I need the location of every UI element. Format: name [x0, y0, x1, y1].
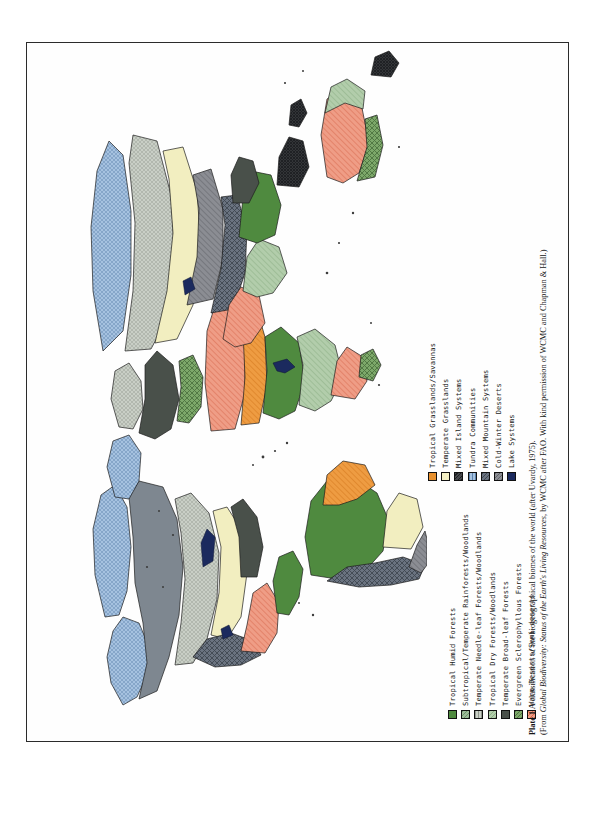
- legend-item-3: Mixed Island Systems: [453, 343, 464, 481]
- legend-item-7: Lake Systems: [506, 343, 517, 481]
- map-region-central-america: [273, 551, 303, 615]
- map-region-mediterranean: [177, 355, 203, 423]
- legend-item-1: Tropical Humid Forests: [447, 514, 458, 719]
- legend-item-6: Cold-Winter Deserts: [493, 343, 504, 481]
- legend-item-5: Temperate Broad-leaf Forests: [500, 514, 511, 719]
- legend-item-label: Subtropical/Temperate Rainforests/Woodla…: [461, 514, 470, 706]
- legend-column-grasslands: Tropical Grasslands/SavannasTemperate Gr…: [427, 343, 517, 481]
- map-region-europe-temperate: [139, 351, 179, 439]
- map-region-canada-arctic: [93, 485, 131, 617]
- legend-item-label: Mixed Mountain Systems: [481, 370, 490, 468]
- caption-plate-number: Plate 1: [528, 711, 537, 735]
- legend-item-3: Temperate Needle-leaf Forests/Woodlands: [473, 514, 484, 719]
- legend-item-label: Temperate Broad-leaf Forests: [501, 581, 510, 706]
- legend-item-4: Tropical Dry Forests/Woodlands: [487, 514, 498, 719]
- legend-swatch-icon: [501, 710, 510, 719]
- legend-swatch-icon: [454, 472, 463, 481]
- caption-source-title: Global Biodiversity: Status of the Earth…: [539, 516, 548, 712]
- legend-item-5: Mixed Mountain Systems: [480, 343, 491, 481]
- legend-swatch-icon: [468, 472, 477, 481]
- legend-item-label: Tundra Communities: [468, 388, 477, 468]
- legend-swatch-icon: [428, 472, 437, 481]
- legend-swatch-icon: [448, 710, 457, 719]
- caption-line-1-text: A classification of the biogeographical …: [528, 440, 537, 710]
- legend-item-label: Tropical Dry Forests/Woodlands: [488, 572, 497, 706]
- caption-source-prefix: (From: [539, 712, 548, 735]
- legend-list-1: Tropical Humid ForestsSubtropical/Temper…: [447, 514, 537, 719]
- map-region-siberia-tundra: [91, 141, 131, 351]
- legend-swatch-icon: [494, 472, 503, 481]
- legend-item-2: Subtropical/Temperate Rainforests/Woodla…: [460, 514, 471, 719]
- legend-item-1: Tropical Grasslands/Savannas: [427, 343, 438, 481]
- legend-swatch-icon: [514, 710, 523, 719]
- legend-item-label: Temperate Grasslands: [441, 379, 450, 468]
- legend-item-6: Evergreen Sclerophyllous Forests: [513, 514, 524, 719]
- legend-swatch-icon: [507, 472, 516, 481]
- legend-column-forests: Tropical Humid ForestsSubtropical/Temper…: [447, 514, 537, 719]
- legend-item-label: Temperate Needle-leaf Forests/Woodlands: [474, 532, 483, 706]
- scanned-page: Tropical Humid ForestsSubtropical/Temper…: [0, 0, 595, 839]
- legend-swatch-icon: [474, 710, 483, 719]
- map-region-indonesia: [277, 137, 309, 187]
- map-region-scandinavia: [111, 363, 143, 429]
- world-biome-map: [27, 43, 427, 742]
- legend-item-label: Tropical Grasslands/Savannas: [428, 343, 437, 468]
- map-region-pampas: [383, 493, 423, 549]
- legend-swatch-icon: [441, 472, 450, 481]
- legend-item-4: Tundra Communities: [467, 343, 478, 481]
- legend-swatch-icon: [461, 710, 470, 719]
- legend-item-label: Tropical Humid Forests: [448, 608, 457, 706]
- legend-list-2: Tropical Grasslands/SavannasTemperate Gr…: [427, 343, 517, 481]
- legend-item-2: Temperate Grasslands: [440, 343, 451, 481]
- legend-item-label: Cold-Winter Deserts: [494, 383, 503, 468]
- legend-swatch-icon: [481, 472, 490, 481]
- map-region-new-zealand: [371, 51, 399, 77]
- caption-source-suffix: , by WCMC after FAO. With kind permissio…: [539, 250, 548, 516]
- plate-caption: Plate 1 A classification of the biogeogr…: [527, 95, 549, 735]
- legend-item-label: Evergreen Sclerophyllous Forests: [514, 563, 523, 706]
- map-svg: [27, 43, 427, 742]
- caption-line-2: (From Global Biodiversity: Status of the…: [538, 95, 549, 735]
- map-region-india: [243, 239, 287, 297]
- legend-item-label: Mixed Island Systems: [454, 379, 463, 468]
- map-region-southwest-deserts: [241, 583, 279, 653]
- legend-item-label: Lake Systems: [507, 414, 516, 468]
- legend-swatch-icon: [488, 710, 497, 719]
- caption-line-1: Plate 1 A classification of the biogeogr…: [527, 95, 538, 735]
- plate-frame: Tropical Humid ForestsSubtropical/Temper…: [26, 42, 569, 742]
- map-region-new-guinea: [289, 99, 307, 127]
- map-region-cape-fynbos: [359, 349, 381, 381]
